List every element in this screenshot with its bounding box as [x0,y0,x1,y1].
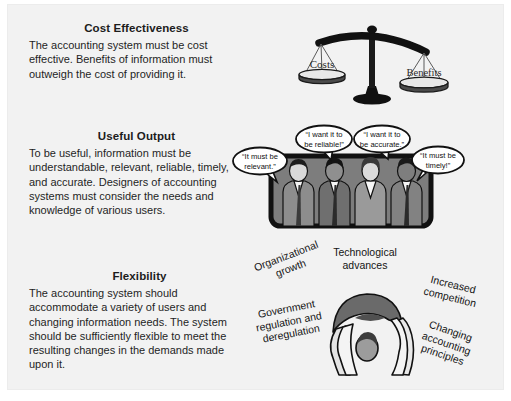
balance-scale-icon: Costs Benefits [299,26,448,105]
svg-text:be accurate.”: be accurate.” [360,140,405,149]
svg-text:timely!”: timely!” [426,161,451,170]
svg-text:relevant.”: relevant.” [244,162,276,171]
svg-text:“I want it to: “I want it to [363,130,400,139]
svg-text:“It must be: “It must be [242,152,278,161]
section-heading: Useful Output [29,130,244,142]
page-root: Cost Effectiveness The accounting system… [0,0,511,401]
useful-output-illustration: “It must be relevant.” “I want it to be … [265,130,465,230]
section-body: The accounting system should accommodate… [29,286,227,372]
balance-scale-illustration: Costs Benefits Costs Benefits [300,16,450,102]
flexibility-illustration: Technological advances Organizational gr… [239,244,501,380]
svg-text:be reliable!”: be reliable!” [304,140,344,149]
section-cost-effectiveness: Cost Effectiveness The accounting system… [29,22,244,81]
scale-left-label: Costs [310,58,334,70]
section-body: To be useful, information must be unders… [29,146,229,217]
section-heading: Cost Effectiveness [29,22,244,34]
section-flexibility: Flexibility The accounting system should… [29,270,244,372]
section-heading: Flexibility [35,270,244,282]
scale-right-label: Benefits [407,67,442,78]
svg-text:“It must be: “It must be [420,151,456,160]
section-body: The accounting system must be cost effec… [29,38,235,81]
gymnast-backbend-icon [331,294,414,375]
figure-canvas: Cost Effectiveness The accounting system… [7,4,504,390]
bubble-timely: “It must be timely!” [412,147,464,182]
section-useful-output: Useful Output To be useful, information … [29,130,244,217]
svg-text:“I want it to: “I want it to [305,130,342,139]
